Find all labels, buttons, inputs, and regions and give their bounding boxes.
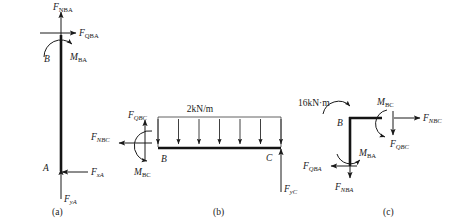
applied-moment-label-16knm: 16kN·m <box>298 98 330 108</box>
moment-label-m-ba-c: MBA <box>358 148 376 159</box>
joint-label-b-panel-b: B <box>161 154 167 164</box>
moment-label-m-bc-c: MBC <box>376 97 394 108</box>
force-label-f-nba-c: FNBA <box>334 182 354 193</box>
force-label-f-qba: FQBA <box>78 28 99 39</box>
force-label-f-qba-c: FQBA <box>302 161 323 172</box>
moment-label-m-ba: MBA <box>69 52 87 63</box>
figure-canvas: FNBA FQBA MBA B A FxA Fy <box>0 0 459 220</box>
panel-caption-a: (a) <box>52 207 63 218</box>
force-label-f-nbc-b: FNBC <box>90 132 110 143</box>
joint-label-c-panel-b: C <box>266 153 273 163</box>
force-label-f-ya: FyA <box>63 194 78 205</box>
distributed-load-label: 2kN/m <box>187 104 214 114</box>
panel-b: 2kN/m FQBC FNBC MBC B C FyC <box>90 104 298 218</box>
force-label-f-qbc-b: FQBC <box>127 110 148 121</box>
force-label-f-xa: FxA <box>90 167 105 178</box>
moment-label-m-bc-b: MBC <box>133 167 151 178</box>
moment-arc-m-ba-c <box>337 154 360 164</box>
distributed-load-arrows <box>158 119 281 144</box>
joint-label-a-panel-a: A <box>42 163 49 173</box>
panel-caption-b: (b) <box>213 207 224 218</box>
force-label-f-qbc-c: FQBC <box>389 139 410 150</box>
moment-arc-m-bc-c <box>376 110 387 137</box>
free-body-diagram-svg: FNBA FQBA MBA B A FxA Fy <box>0 0 459 220</box>
joint-label-b-panel-a: B <box>44 54 50 64</box>
joint-label-b-panel-c: B <box>337 118 343 128</box>
panel-caption-c: (c) <box>383 207 394 218</box>
force-label-f-nba: FNBA <box>52 2 73 13</box>
panel-c: 16kN·m B MBC FNBC FQBC MBA <box>298 97 442 218</box>
panel-a: FNBA FQBA MBA B A FxA Fy <box>40 2 105 218</box>
moment-arc-m-bc-b <box>134 131 152 161</box>
force-label-f-yc: FyC <box>283 184 298 195</box>
force-label-f-nbc-c: FNBC <box>422 113 442 124</box>
